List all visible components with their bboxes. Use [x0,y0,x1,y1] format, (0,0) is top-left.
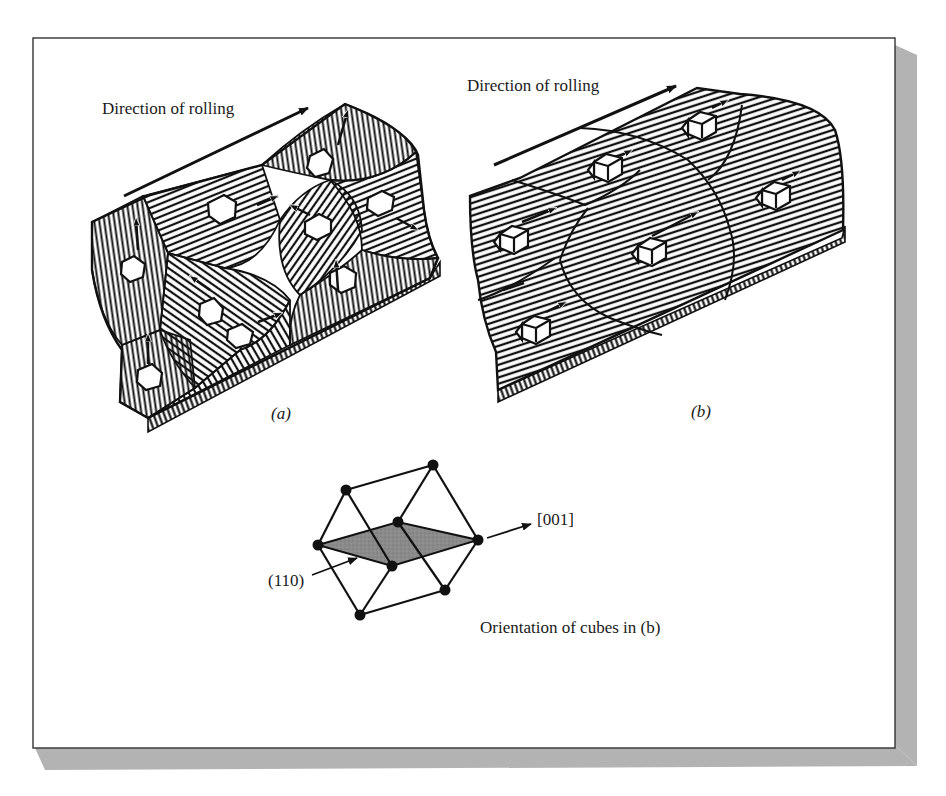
direction-001-label: [001] [537,510,574,530]
panel-b-direction-label: Direction of rolling [467,76,599,96]
panel-b-caption: (b) [691,402,711,422]
unit-cell-caption: Orientation of cubes in (b) [480,618,660,638]
panel-a-caption: (a) [271,404,291,424]
figure-svg [0,0,946,796]
plane-110-label: (110) [268,571,304,591]
figure-canvas: Direction of rolling (a) Direction of ro… [0,0,946,796]
panel-a-direction-label: Direction of rolling [102,99,234,119]
